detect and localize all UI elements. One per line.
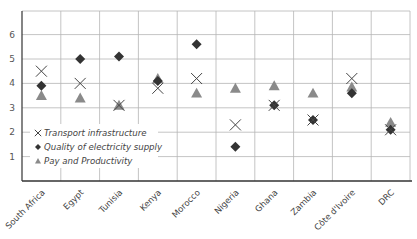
x-marker-point bbox=[230, 119, 241, 130]
y-axis-ticks: 123456 bbox=[9, 30, 15, 162]
y-tick-label: 4 bbox=[9, 78, 15, 88]
legend-item-electricity: Quality of electricity supply bbox=[35, 142, 163, 152]
triangle-marker-point bbox=[36, 90, 47, 100]
legend-label-transport: Transport infrastructure bbox=[44, 128, 147, 138]
legend-label-pay: Pay and Productivity bbox=[44, 156, 133, 166]
x-category-label: Zambia bbox=[289, 187, 319, 217]
diamond-marker-point bbox=[36, 81, 46, 91]
x-category-label: Kenya bbox=[138, 187, 163, 212]
diamond-marker-point bbox=[114, 52, 124, 62]
x-category-label: Nigeria bbox=[212, 187, 241, 216]
x-marker-point bbox=[36, 66, 47, 77]
legend-item-transport: Transport infrastructure bbox=[35, 128, 147, 138]
x-marker-point bbox=[191, 73, 202, 84]
diamond-marker-point bbox=[230, 142, 240, 152]
x-category-label: DRC bbox=[376, 187, 396, 207]
x-category-label: Tunisia bbox=[96, 187, 124, 215]
x-category-label: Morocco bbox=[170, 187, 202, 219]
x-category-label: South Africa bbox=[3, 187, 47, 231]
diamond-marker-point bbox=[75, 54, 85, 64]
triangle-marker-point bbox=[269, 80, 280, 90]
y-tick-label: 3 bbox=[9, 103, 15, 113]
legend-item-pay: Pay and Productivity bbox=[35, 156, 133, 166]
triangle-marker-point bbox=[191, 88, 202, 98]
triangle-marker-point bbox=[75, 93, 86, 103]
triangle-marker-point bbox=[230, 83, 241, 93]
legend: Transport infrastructure Quality of elec… bbox=[30, 124, 163, 168]
y-tick-label: 1 bbox=[9, 152, 15, 162]
legend-label-electricity: Quality of electricity supply bbox=[44, 142, 163, 152]
y-tick-label: 5 bbox=[9, 54, 15, 64]
y-tick-label: 2 bbox=[9, 127, 15, 137]
y-tick-label: 6 bbox=[9, 30, 15, 40]
diamond-marker-point bbox=[192, 39, 202, 49]
x-category-label: Côte d'Ivoire bbox=[312, 187, 357, 232]
x-category-label: Egypt bbox=[61, 187, 86, 212]
x-category-label: Ghana bbox=[253, 187, 280, 214]
triangle-marker-point bbox=[308, 88, 319, 98]
scatter-chart: 123456 Transport infrastructure Quality … bbox=[0, 0, 417, 239]
x-axis-category-labels: South AfricaEgyptTunisiaKenyaMoroccoNige… bbox=[3, 187, 396, 233]
